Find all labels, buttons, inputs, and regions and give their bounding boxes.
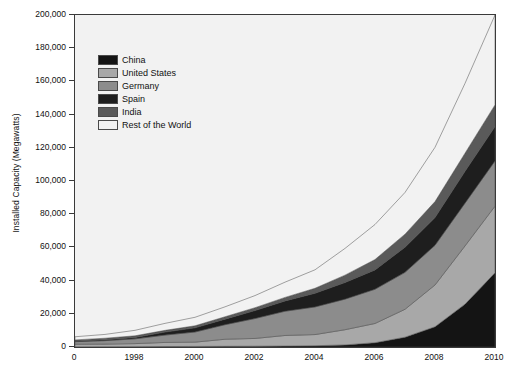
y-tick-label: 20,000	[4, 308, 66, 318]
legend-swatch-icon	[98, 68, 118, 78]
legend-item[interactable]: Rest of the World	[98, 119, 191, 131]
legend-swatch-icon	[98, 120, 118, 130]
x-tick-label: 2008	[425, 352, 444, 362]
legend-item-label: India	[122, 107, 142, 117]
y-tick-label: 100,000	[4, 175, 66, 185]
legend-item-label: China	[122, 55, 146, 65]
legend-item-label: Rest of the World	[122, 120, 191, 130]
y-tick-label: 60,000	[4, 241, 66, 251]
legend-item-label: Germany	[122, 81, 159, 91]
legend-swatch-icon	[98, 81, 118, 91]
legend-swatch-icon	[98, 94, 118, 104]
chart-figure: Installed Capacity (Megawatts) 020,00040…	[0, 0, 525, 374]
legend-item[interactable]: China	[98, 54, 191, 66]
y-tick-label: 40,000	[4, 275, 66, 285]
legend-item[interactable]: India	[98, 106, 191, 118]
x-tick-label: 2010	[485, 352, 504, 362]
y-tick-label: 140,000	[4, 109, 66, 119]
y-tick-label: 0	[4, 341, 66, 351]
y-tick-label: 80,000	[4, 208, 66, 218]
chart-legend: ChinaUnited StatesGermanySpainIndiaRest …	[98, 54, 191, 131]
legend-swatch-icon	[98, 55, 118, 65]
x-tick-label: 2006	[365, 352, 384, 362]
legend-item[interactable]: Germany	[98, 80, 191, 92]
legend-item[interactable]: Spain	[98, 93, 191, 105]
x-tick-label: 2000	[185, 352, 204, 362]
x-tick-label: 0	[72, 352, 77, 362]
legend-item[interactable]: United States	[98, 67, 191, 79]
y-tick-label: 160,000	[4, 75, 66, 85]
legend-item-label: United States	[122, 68, 176, 78]
x-tick-label: 2002	[245, 352, 264, 362]
y-tick-label: 200,000	[4, 9, 66, 19]
y-tick-label: 180,000	[4, 42, 66, 52]
x-tick-label: 1998	[125, 352, 144, 362]
legend-swatch-icon	[98, 107, 118, 117]
x-tick-label: 2004	[305, 352, 324, 362]
legend-item-label: Spain	[122, 94, 145, 104]
y-tick-label: 120,000	[4, 142, 66, 152]
